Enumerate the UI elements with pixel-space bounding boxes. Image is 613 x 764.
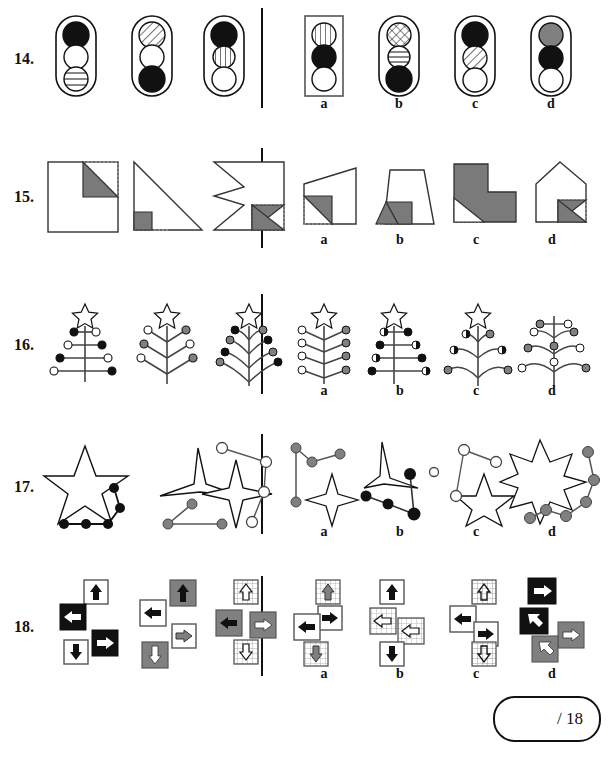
option-18-d[interactable] bbox=[508, 574, 598, 668]
option-14-d[interactable] bbox=[527, 13, 575, 99]
option-18-a[interactable] bbox=[290, 578, 366, 668]
prompt-16-3 bbox=[210, 300, 288, 390]
option-17-a[interactable] bbox=[288, 440, 358, 526]
score-total-label: / 18 bbox=[557, 709, 583, 729]
question-number-18: 18. bbox=[14, 618, 34, 636]
option-15-c[interactable] bbox=[446, 158, 520, 232]
option-label-18-b: b bbox=[380, 666, 420, 682]
option-label-16-c: c bbox=[456, 383, 496, 399]
option-15-a[interactable] bbox=[296, 162, 366, 232]
option-15-d[interactable] bbox=[528, 158, 592, 232]
option-label-17-b: b bbox=[380, 524, 420, 540]
option-label-18-d: d bbox=[532, 666, 572, 682]
prompt-17-3 bbox=[198, 434, 302, 534]
prompt-16-1 bbox=[46, 300, 124, 390]
option-label-14-b: b bbox=[379, 96, 419, 112]
question-number-17: 17. bbox=[14, 478, 34, 496]
worksheet-page: 14. bbox=[0, 0, 613, 764]
question-row-14: 14. bbox=[0, 0, 613, 130]
option-label-15-a: a bbox=[304, 232, 344, 248]
option-16-c[interactable] bbox=[440, 300, 520, 390]
option-16-d[interactable] bbox=[512, 300, 596, 390]
question-number-15: 15. bbox=[14, 188, 34, 206]
prompt-15-3 bbox=[212, 160, 292, 234]
option-14-a[interactable] bbox=[300, 13, 348, 99]
question-number-16: 16. bbox=[14, 336, 34, 354]
option-label-16-a: a bbox=[304, 383, 344, 399]
option-label-14-c: c bbox=[455, 96, 495, 112]
prompt-15-1 bbox=[46, 160, 120, 234]
option-17-b[interactable] bbox=[362, 438, 440, 526]
option-label-14-a: a bbox=[304, 96, 344, 112]
option-label-15-d: d bbox=[532, 232, 572, 248]
option-label-18-a: a bbox=[304, 666, 344, 682]
question-row-17: 17. bbox=[0, 428, 613, 548]
prompt-14-2 bbox=[128, 13, 176, 99]
question-row-16: 16. bbox=[0, 288, 613, 408]
option-label-16-b: b bbox=[380, 383, 420, 399]
option-label-17-a: a bbox=[304, 524, 344, 540]
option-label-17-c: c bbox=[456, 524, 496, 540]
option-label-14-d: d bbox=[531, 96, 571, 112]
option-14-b[interactable] bbox=[375, 13, 423, 99]
option-16-b[interactable] bbox=[364, 300, 438, 390]
question-row-18: 18. bbox=[0, 570, 613, 690]
row-divider-14 bbox=[261, 8, 263, 108]
question-number-14: 14. bbox=[14, 50, 34, 68]
question-row-15: 15. a bbox=[0, 140, 613, 260]
option-15-b[interactable] bbox=[372, 162, 442, 232]
option-label-17-d: d bbox=[532, 524, 572, 540]
option-16-a[interactable] bbox=[288, 300, 360, 390]
prompt-15-2 bbox=[130, 160, 204, 234]
option-18-b[interactable] bbox=[366, 578, 446, 668]
prompt-17-1 bbox=[42, 440, 152, 532]
option-17-d[interactable] bbox=[500, 436, 604, 528]
option-label-16-d: d bbox=[532, 383, 572, 399]
prompt-16-2 bbox=[128, 300, 206, 390]
option-label-15-b: b bbox=[380, 232, 420, 248]
option-14-c[interactable] bbox=[451, 13, 499, 99]
score-box[interactable]: / 18 bbox=[493, 696, 601, 742]
prompt-14-3 bbox=[200, 13, 248, 99]
option-label-15-c: c bbox=[456, 232, 496, 248]
prompt-14-1 bbox=[52, 13, 100, 99]
option-label-18-c: c bbox=[456, 666, 496, 682]
